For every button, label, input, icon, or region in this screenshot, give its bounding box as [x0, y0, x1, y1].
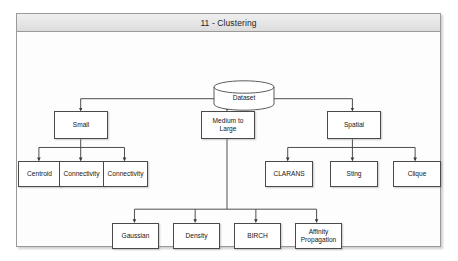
- node-spatial[interactable]: Spatial: [327, 111, 381, 139]
- dataset-label: Dataset: [213, 80, 275, 111]
- dataset-cylinder: Dataset: [213, 80, 275, 111]
- node-clique-label: Clique: [408, 170, 427, 178]
- node-density[interactable]: Density: [173, 223, 220, 249]
- node-connectivity-1[interactable]: Connectivity: [59, 161, 104, 187]
- node-gaussian-label: Gaussian: [122, 232, 150, 240]
- page-title: 11 - Clustering: [200, 18, 256, 28]
- clustering-taxonomy-diagram: Dataset Small Medium to Large Spatial Ce…: [17, 32, 440, 246]
- node-small-label: Small: [73, 121, 90, 129]
- node-medium-to-large-label: Medium to Large: [213, 117, 244, 133]
- node-clarans[interactable]: CLARANS: [265, 161, 313, 187]
- node-clarans-label: CLARANS: [273, 170, 304, 178]
- node-connectivity-2[interactable]: Connectivity: [103, 161, 148, 187]
- node-spatial-label: Spatial: [344, 121, 364, 129]
- node-birch[interactable]: BIRCH: [234, 223, 281, 249]
- node-affinity-propagation[interactable]: Affinity Propagation: [295, 223, 342, 249]
- node-medium-to-large[interactable]: Medium to Large: [201, 111, 255, 139]
- node-affinity-propagation-label: Affinity Propagation: [301, 228, 337, 244]
- node-centroid-label: Centroid: [27, 170, 52, 178]
- node-connectivity-2-label: Connectivity: [108, 170, 144, 178]
- node-clique[interactable]: Clique: [393, 161, 441, 187]
- connector-lines: [17, 32, 440, 246]
- node-gaussian[interactable]: Gaussian: [112, 223, 159, 249]
- node-sting[interactable]: Sting: [330, 161, 378, 187]
- title-bar: 11 - Clustering: [17, 14, 440, 32]
- document-frame: 11 - Clustering: [16, 13, 441, 247]
- node-connectivity-1-label: Connectivity: [64, 170, 100, 178]
- node-density-label: Density: [186, 232, 208, 240]
- node-sting-label: Sting: [346, 170, 361, 178]
- node-centroid[interactable]: Centroid: [18, 161, 61, 187]
- node-birch-label: BIRCH: [247, 232, 268, 240]
- node-small[interactable]: Small: [54, 111, 108, 139]
